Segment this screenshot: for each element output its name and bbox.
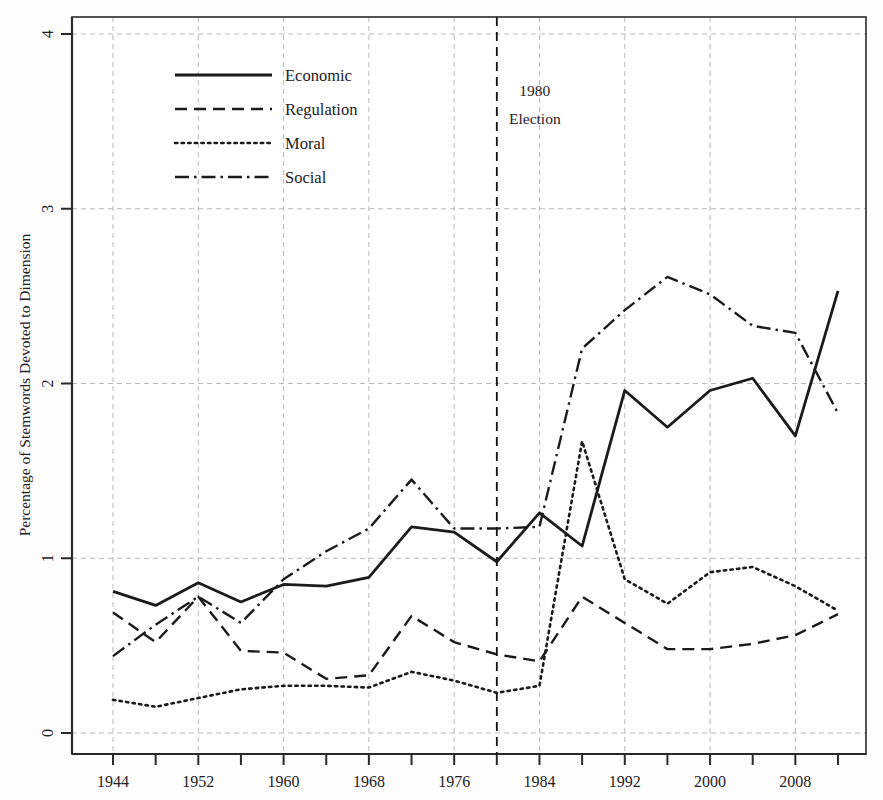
- chart-figure: 01234 1944195219601968197619841992200020…: [0, 0, 883, 800]
- y-axis-title: Percentage of Stemwords Devoted to Dimen…: [16, 233, 33, 536]
- x-axis-ticks: [113, 754, 838, 765]
- line-chart-canvas: 01234 1944195219601968197619841992200020…: [0, 0, 883, 800]
- x-tick-label: 1976: [438, 773, 470, 790]
- x-tick-label: 1960: [268, 773, 300, 790]
- y-axis-ticks: [61, 34, 72, 733]
- election-annotation-year: 1980: [519, 82, 550, 99]
- y-tick-label: 2: [39, 380, 56, 388]
- x-tick-label: 1968: [353, 773, 385, 790]
- legend-label-social: Social: [285, 168, 327, 187]
- legend-label-regulation: Regulation: [285, 100, 357, 119]
- y-tick-label: 4: [39, 30, 56, 38]
- legend-label-economic: Economic: [285, 66, 352, 85]
- x-tick-label: 2000: [694, 773, 726, 790]
- x-tick-label: 1992: [609, 773, 641, 790]
- y-axis-tick-labels: 01234: [39, 30, 56, 737]
- x-tick-label: 2008: [779, 773, 811, 790]
- y-tick-label: 1: [39, 554, 56, 562]
- x-tick-label: 1984: [523, 773, 555, 790]
- x-tick-label: 1944: [97, 773, 129, 790]
- election-annotation-label: Election: [509, 110, 561, 127]
- legend-label-moral: Moral: [285, 134, 326, 153]
- x-axis-tick-labels: 194419521960196819761984199220002008: [97, 773, 811, 790]
- y-tick-label: 0: [39, 729, 56, 737]
- y-tick-label: 3: [39, 205, 56, 213]
- x-tick-label: 1952: [182, 773, 214, 790]
